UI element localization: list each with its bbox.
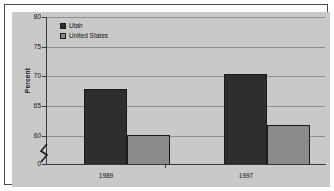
y-tick-label-80: 80: [15, 13, 41, 20]
bar-united-states-1989[interactable]: [127, 135, 170, 165]
axis-break-icon: [38, 143, 52, 163]
y-tick-60: [42, 136, 46, 137]
x-tick-center: [165, 164, 166, 168]
y-tick-80: [42, 17, 46, 18]
legend-item-utah[interactable]: Utah: [60, 21, 108, 30]
legend-swatch-utah-icon: [60, 23, 66, 29]
y-tick-65: [42, 106, 46, 107]
x-tick-label-1997: 1997: [216, 172, 276, 179]
legend-item-united-states[interactable]: United States: [60, 31, 108, 40]
bar-united-states-1997[interactable]: [267, 125, 310, 165]
y-tick-70: [42, 76, 46, 77]
chart-frame: 80 75 70 65 60 0 1989 1997 Percent Utah …: [4, 4, 328, 185]
x-tick-label-1989: 1989: [76, 172, 136, 179]
y-tick-0: [42, 164, 46, 165]
bar-utah-1989[interactable]: [84, 89, 127, 165]
gridline-70: [46, 76, 325, 77]
legend-label-utah: Utah: [69, 22, 83, 29]
gridline-75: [46, 47, 325, 48]
y-axis-title: Percent: [24, 51, 31, 111]
legend-label-united-states: United States: [69, 32, 108, 39]
y-tick-label-75: 75: [15, 43, 41, 50]
bar-utah-1997[interactable]: [224, 74, 267, 165]
y-tick-label-60: 60: [15, 132, 41, 139]
legend-swatch-united-states-icon: [60, 33, 66, 39]
gridline-80: [46, 17, 325, 18]
x-axis-line: [46, 164, 326, 165]
y-tick-75: [42, 47, 46, 48]
chart-legend: Utah United States: [58, 19, 111, 43]
